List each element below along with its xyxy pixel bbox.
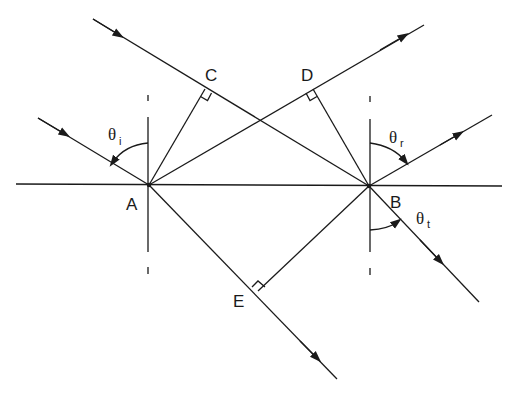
label-C: C <box>205 66 217 85</box>
svg-text:θ: θ <box>389 128 397 147</box>
interface-line <box>16 184 502 186</box>
wavefront-B-E <box>258 186 369 291</box>
point-B-dot <box>367 184 371 188</box>
right-angle-E <box>252 281 265 287</box>
svg-text:θ: θ <box>108 125 116 144</box>
incident-ray-to-B <box>93 19 369 186</box>
angle-arc-transmission <box>370 222 397 230</box>
label-B: B <box>390 193 401 212</box>
svg-text:θ: θ <box>416 209 424 228</box>
svg-text:t: t <box>427 218 430 230</box>
svg-text:i: i <box>119 135 121 147</box>
label-theta-t: θ t <box>416 209 430 230</box>
label-A: A <box>126 195 138 214</box>
svg-text:r: r <box>400 137 404 149</box>
wavefront-A-C <box>149 89 205 185</box>
label-E: E <box>233 292 244 311</box>
reflected-ray-from-B <box>369 115 492 186</box>
point-A-dot <box>147 183 151 187</box>
label-theta-i: θ i <box>108 125 121 147</box>
label-theta-r: θ r <box>389 128 404 149</box>
label-D: D <box>301 66 313 85</box>
wavefront-B-D <box>313 89 369 186</box>
reflection-refraction-diagram: C D A B E θ i θ r θ t <box>0 0 516 393</box>
